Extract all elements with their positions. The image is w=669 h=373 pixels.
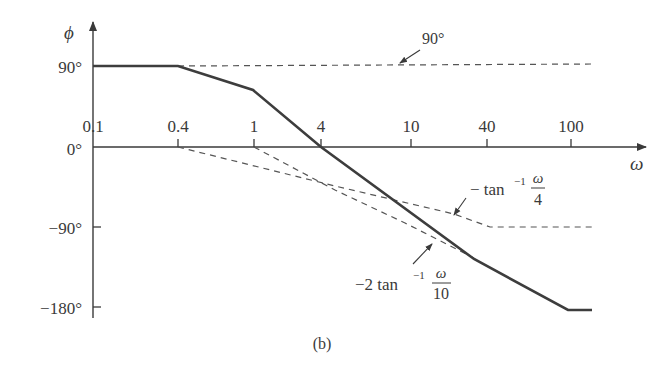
annotation-tan-w-over-4: − tan −1 ω 4 [454,170,545,215]
annotation-tan10-num: ω [436,265,447,281]
annotation-tan4-den: 4 [534,191,542,208]
y-tick-label-minus90: −90° [49,219,82,238]
x-tick-label-40: 40 [479,117,496,136]
bode-phase-plot: ϕ ω 90° 0° −90° −180° 0.1 0.4 1 4 10 40 … [0,0,669,373]
x-tick-label-1: 1 [250,117,259,136]
annotation-2tan-w-over-10: −2 tan −1 ω 10 [355,244,451,302]
annotation-tan10-prefix: −2 tan [355,275,399,294]
annotation-tan4-num: ω [533,170,544,186]
x-ticks [178,139,571,147]
y-tick-label-90: 90° [58,58,82,77]
annotation-tan4-sup: −1 [514,175,526,187]
curve-90deg [178,64,596,66]
curve-minus-2tan-w-over-10 [254,147,474,258]
annotation-tan10-sup: −1 [413,269,425,281]
x-tick-label-4: 4 [317,117,326,136]
x-tick-label-10: 10 [403,117,420,136]
curve-minus-tan-w-over-4 [178,147,596,227]
annotation-tan4-prefix: − tan [470,180,505,199]
y-tick-label-minus180: −180° [40,299,82,318]
annotation-tan10-den: 10 [433,285,449,302]
y-ticks [93,227,101,307]
x-tick-label-100: 100 [558,117,584,136]
component-curves [178,64,596,258]
y-axis-label: ϕ [64,22,74,43]
y-tick-label-0: 0° [67,140,82,159]
x-tick-label-0.1: 0.1 [82,117,103,136]
figure-caption: (b) [313,335,332,353]
x-axis-label: ω [630,153,643,174]
x-tick-label-0.4: 0.4 [167,117,189,136]
annotation-90deg: 90° [400,30,444,63]
annotation-90deg-label: 90° [422,30,444,47]
